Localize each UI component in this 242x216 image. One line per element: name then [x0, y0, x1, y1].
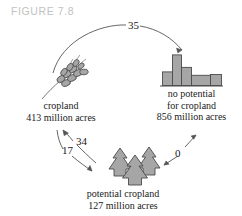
bar-chart-icon: [160, 55, 223, 86]
figure-title: FIGURE 7.8: [11, 5, 74, 17]
no-potential-name-1: no potential: [141, 88, 242, 100]
cropland-name: cropland: [0, 100, 122, 112]
bar-5: [211, 75, 222, 86]
bar-2: [173, 55, 182, 86]
bar-1: [163, 72, 173, 86]
flow-label-34: 34: [76, 135, 87, 147]
node-label-no-potential: no potential for cropland 856 million ac…: [141, 88, 242, 123]
trees-icon: [109, 147, 160, 185]
no-potential-name-2: for cropland: [141, 100, 242, 112]
bar-4: [192, 75, 211, 85]
cropland-value: 413 million acres: [0, 112, 122, 124]
potential-cropland-name: potential cropland: [57, 188, 189, 200]
node-label-cropland: cropland 413 million acres: [0, 100, 122, 123]
flow-label-17: 17: [62, 144, 73, 156]
flow-label-0: 0: [175, 147, 181, 159]
node-label-potential-cropland: potential cropland 127 million acres: [57, 188, 189, 211]
wheat-icon: [42, 55, 89, 99]
flow-label-35: 35: [128, 19, 139, 31]
bar-3: [182, 67, 192, 85]
no-potential-value: 856 million acres: [141, 111, 242, 123]
potential-cropland-value: 127 million acres: [57, 200, 189, 212]
